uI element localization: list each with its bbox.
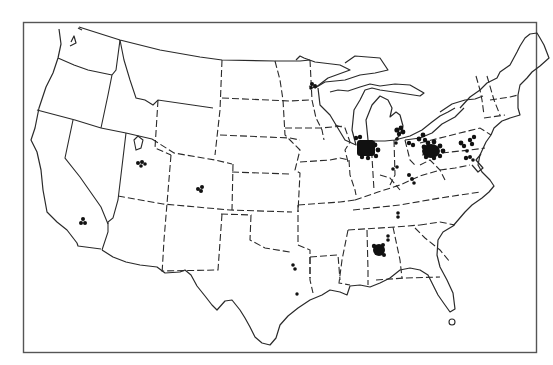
marker-cluster-birmingham <box>372 243 386 257</box>
marker-cluster-chicago <box>354 135 381 160</box>
marker-dot <box>199 189 203 193</box>
marker-cluster-ohio-pa <box>422 140 446 161</box>
us-map <box>0 0 553 365</box>
marker-dot <box>313 84 317 88</box>
state-borders-solid <box>37 40 213 250</box>
marker-dot <box>309 86 313 90</box>
marker-dot <box>200 185 204 189</box>
marker-dot <box>81 217 85 221</box>
marker-dot <box>139 164 143 168</box>
map-frame <box>24 23 537 353</box>
marker-dot <box>79 221 83 225</box>
site-markers <box>79 82 476 296</box>
state-borders-dashed <box>118 60 518 293</box>
marker-dot <box>83 221 87 225</box>
marker-dot <box>136 161 140 165</box>
marker-dot <box>143 162 147 166</box>
marker-cluster-detroit <box>394 126 405 145</box>
